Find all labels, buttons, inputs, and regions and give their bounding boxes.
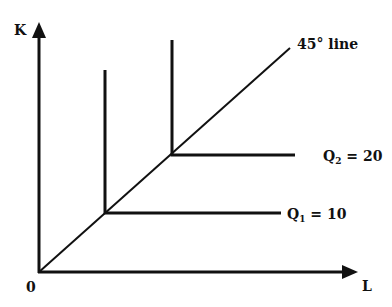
q1-value: = 10 [305, 206, 346, 222]
k-axis-label: K [14, 23, 26, 37]
ray-45-degree [39, 48, 290, 272]
q2-value: = 20 [341, 148, 382, 164]
l-axis-label: L [362, 279, 372, 293]
isoquant-q2-label: Q2 = 20 [323, 149, 382, 166]
isoquant-q1-label: Q1 = 10 [287, 207, 346, 224]
q2-symbol: Q [323, 148, 335, 164]
l-axis-arrow-icon [342, 265, 358, 279]
diagram-canvas: K L 0 45° line Q2 = 20 Q1 = 10 [0, 0, 392, 307]
ray-label: 45° line [297, 37, 358, 51]
isoquant-q1 [105, 70, 281, 213]
k-axis-arrow-icon [32, 22, 46, 38]
origin-label: 0 [26, 280, 36, 294]
q1-symbol: Q [287, 206, 299, 222]
